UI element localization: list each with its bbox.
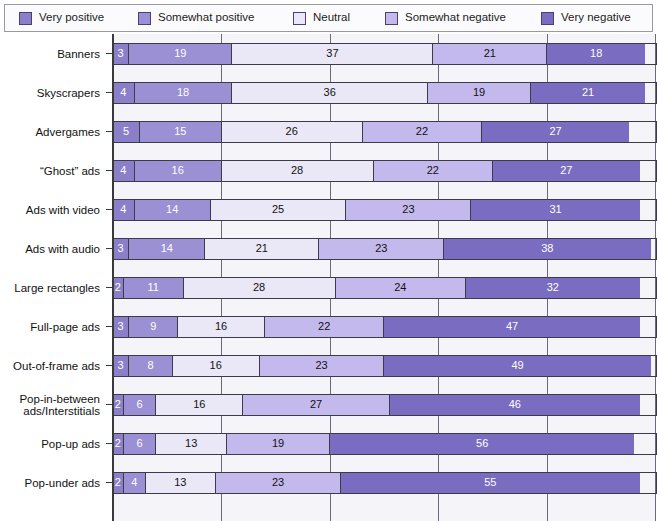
- stacked-bar[interactable]: 319372118: [112, 43, 657, 65]
- row-label-10: Pop-up ads: [0, 438, 106, 450]
- table-row: Full-page ads39162247: [0, 307, 657, 346]
- bar-segment-very-negative[interactable]: 31: [471, 200, 639, 220]
- bar-segment-somewhat-negative[interactable]: 23: [260, 356, 385, 376]
- bar-segment-value: 55: [484, 477, 496, 488]
- bar-segment-somewhat-negative[interactable]: 19: [428, 83, 531, 103]
- bar-segment-value: 4: [120, 204, 126, 215]
- bar-segment-somewhat-positive[interactable]: 15: [140, 122, 221, 142]
- bar-segment-very-positive[interactable]: 3: [113, 239, 129, 259]
- bar-segment-value: 28: [291, 165, 303, 176]
- bar-segment-very-positive[interactable]: 2: [113, 434, 124, 454]
- row-label-line1: Large rectangles: [14, 282, 100, 294]
- stacked-bar[interactable]: 418361921: [112, 82, 657, 104]
- table-row: Large rectangles211282432: [0, 268, 657, 307]
- bar-segment-somewhat-negative[interactable]: 23: [319, 239, 444, 259]
- row-label-line1: Out-of-frame ads: [13, 360, 100, 372]
- bar-segment-somewhat-positive[interactable]: 9: [129, 317, 178, 337]
- bar-segment-neutral[interactable]: 16: [173, 356, 260, 376]
- bar-segment-neutral[interactable]: 28: [184, 278, 336, 298]
- bar-segment-very-positive[interactable]: 3: [113, 317, 129, 337]
- legend-label: Somewhat negative: [405, 12, 506, 24]
- stacked-bar[interactable]: 211282432: [112, 277, 657, 299]
- stacked-bar[interactable]: 38162349: [112, 355, 657, 377]
- row-label-9: Pop-in-betweenads/Interstitials: [0, 393, 106, 417]
- stacked-bar[interactable]: 414252331: [112, 199, 657, 221]
- bar-segment-neutral[interactable]: 21: [205, 239, 319, 259]
- bar-segment-very-negative[interactable]: 46: [390, 395, 640, 415]
- bar-segment-somewhat-negative[interactable]: 22: [265, 317, 384, 337]
- bar-segment-neutral[interactable]: 28: [222, 161, 374, 181]
- bar-segment-somewhat-positive[interactable]: 19: [129, 44, 232, 64]
- bar-segment-very-negative[interactable]: 49: [384, 356, 650, 376]
- stacked-bar[interactable]: 26162746: [112, 394, 657, 416]
- bar-segment-value: 3: [118, 243, 124, 254]
- bar-segment-very-negative[interactable]: 56: [330, 434, 634, 454]
- bar-segment-neutral[interactable]: 16: [178, 317, 265, 337]
- bar-segment-very-positive[interactable]: 5: [113, 122, 140, 142]
- bar-segment-neutral[interactable]: 37: [232, 44, 433, 64]
- bar-segment-somewhat-positive[interactable]: 6: [124, 395, 157, 415]
- row-label-5: Ads with audio: [0, 243, 106, 255]
- bar-segment-neutral[interactable]: 36: [232, 83, 427, 103]
- bar-segment-somewhat-negative[interactable]: 24: [336, 278, 466, 298]
- bar-segment-somewhat-negative[interactable]: 22: [363, 122, 482, 142]
- bar-segment-somewhat-negative[interactable]: 23: [346, 200, 471, 220]
- bar-segment-neutral[interactable]: 16: [156, 395, 243, 415]
- stacked-bar[interactable]: 314212338: [112, 238, 657, 260]
- bar-segment-very-negative[interactable]: 55: [341, 473, 640, 493]
- bar-segment-very-positive[interactable]: 4: [113, 161, 135, 181]
- stacked-bar[interactable]: 515262227: [112, 121, 657, 143]
- bar-segment-very-positive[interactable]: 2: [113, 473, 124, 493]
- bar-segment-somewhat-positive[interactable]: 8: [129, 356, 172, 376]
- row-label-line1: Ads with video: [26, 204, 100, 216]
- stacked-bar[interactable]: 39162247: [112, 316, 657, 338]
- bar-segment-somewhat-positive[interactable]: 6: [124, 434, 157, 454]
- bar-segment-value: 32: [547, 282, 559, 293]
- bar-segment-somewhat-positive[interactable]: 18: [135, 83, 233, 103]
- bar-segment-value: 13: [174, 477, 186, 488]
- bar-segment-very-positive[interactable]: 2: [113, 278, 124, 298]
- bar-segment-very-positive[interactable]: 2: [113, 395, 124, 415]
- bar-segment-somewhat-negative[interactable]: 27: [243, 395, 390, 415]
- table-row: Skyscrapers418361921: [0, 73, 657, 112]
- bar-segment-value: 3: [118, 48, 124, 59]
- bar-segment-very-negative[interactable]: 38: [444, 239, 650, 259]
- table-row: Banners319372118: [0, 34, 657, 73]
- bar-segment-somewhat-negative[interactable]: 22: [374, 161, 493, 181]
- bar-segment-very-positive[interactable]: 4: [113, 200, 135, 220]
- bar-segment-somewhat-negative[interactable]: 19: [227, 434, 330, 454]
- bar-segment-somewhat-negative[interactable]: 21: [433, 44, 547, 64]
- bar-segment-neutral[interactable]: 25: [211, 200, 347, 220]
- bar-segment-neutral[interactable]: 26: [222, 122, 363, 142]
- bar-segment-very-positive[interactable]: 4: [113, 83, 135, 103]
- bar-segment-very-negative[interactable]: 27: [482, 122, 629, 142]
- stacked-bar[interactable]: 26131956: [112, 433, 657, 455]
- bar-segment-very-negative[interactable]: 27: [493, 161, 640, 181]
- row-label-1: Skyscrapers: [0, 87, 106, 99]
- bar-segment-very-negative[interactable]: 47: [384, 317, 639, 337]
- bar-segment-value: 28: [253, 282, 265, 293]
- chart-page: Very positiveSomewhat positiveNeutralSom…: [0, 0, 657, 521]
- bar-segment-somewhat-positive[interactable]: 11: [124, 278, 184, 298]
- bar-segment-very-positive[interactable]: 3: [113, 356, 129, 376]
- bar-segment-value: 14: [161, 243, 173, 254]
- bar-segment-very-negative[interactable]: 18: [547, 44, 645, 64]
- bar-segment-somewhat-positive[interactable]: 14: [135, 200, 211, 220]
- bar-segment-very-negative[interactable]: 32: [466, 278, 640, 298]
- bar-segment-somewhat-positive[interactable]: 16: [135, 161, 222, 181]
- legend-label: Very positive: [39, 12, 104, 24]
- bar-segment-somewhat-positive[interactable]: 14: [129, 239, 205, 259]
- bar-segment-somewhat-positive[interactable]: 4: [124, 473, 146, 493]
- bar-segment-value: 21: [256, 243, 268, 254]
- bar-segment-very-positive[interactable]: 3: [113, 44, 129, 64]
- stacked-bar[interactable]: 24132355: [112, 472, 657, 494]
- bar-segment-value: 49: [511, 360, 523, 371]
- bar-segment-somewhat-negative[interactable]: 23: [216, 473, 341, 493]
- bar-segment-neutral[interactable]: 13: [146, 473, 217, 493]
- legend-label: Neutral: [313, 12, 350, 24]
- row-label-line1: Banners: [57, 48, 100, 60]
- bar-segment-neutral[interactable]: 13: [156, 434, 227, 454]
- stacked-bar[interactable]: 416282227: [112, 160, 657, 182]
- bar-segment-very-negative[interactable]: 21: [531, 83, 645, 103]
- bar-segment-value: 5: [123, 126, 129, 137]
